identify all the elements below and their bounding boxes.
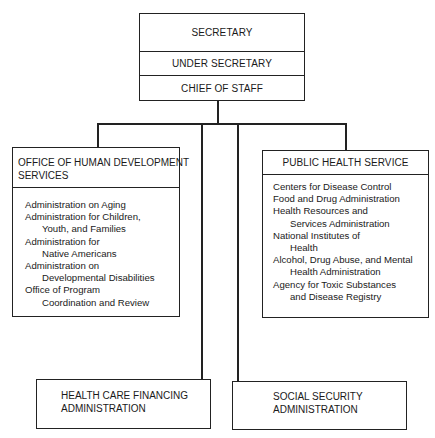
- ohds-title-line2: SERVICES: [18, 169, 174, 182]
- connector-left-drop: [97, 123, 99, 148]
- hcfa-label: HEALTH CARE FINANCING ADMINISTRATION: [61, 390, 188, 415]
- list-item: Administration onDevelopmental Disabilit…: [13, 260, 179, 284]
- ohds-title: OFFICE OF HUMAN DEVELOPMENT SERVICES: [13, 156, 179, 182]
- list-item-text: Health Resources and: [273, 205, 368, 216]
- divider: [263, 174, 428, 175]
- list-item: National Institutes ofHealth: [263, 230, 428, 254]
- list-item-text-cont: and Disease Registry: [273, 291, 428, 303]
- list-item-text-cont: Services Administration: [273, 218, 428, 230]
- list-item: Administration for Children,Youth, and F…: [13, 211, 179, 235]
- list-item-text: Office of Program: [25, 284, 100, 295]
- connector-top-stem: [217, 100, 219, 125]
- phs-title: PUBLIC HEALTH SERVICE: [263, 151, 428, 174]
- list-item-text: Administration on Aging: [25, 199, 126, 210]
- list-item-text: National Institutes of: [273, 230, 360, 241]
- list-item-text-cont: Health Administration: [273, 266, 428, 278]
- list-item-text: Administration for Children,: [25, 211, 141, 222]
- list-item-text: Centers for Disease Control: [273, 181, 391, 192]
- ohds-list: Administration on Aging Administration f…: [13, 199, 179, 309]
- list-item-text: Agency for Toxic Substances: [273, 279, 396, 290]
- phs-box: PUBLIC HEALTH SERVICE Centers for Diseas…: [262, 150, 429, 318]
- ohds-title-line1: OFFICE OF HUMAN DEVELOPMENT: [18, 156, 174, 169]
- ssa-label-line1: SOCIAL SECURITY: [273, 391, 363, 404]
- connector-right-drop: [345, 123, 347, 151]
- list-item-text-cont: Youth, and Families: [25, 223, 179, 235]
- list-item: Centers for Disease Control: [263, 181, 428, 193]
- list-item-text: Administration on: [25, 260, 99, 271]
- list-item-text: Alcohol, Drug Abuse, and Mental: [273, 254, 413, 265]
- ssa-box: SOCIAL SECURITY ADMINISTRATION: [232, 381, 407, 430]
- list-item: Administration forNative Americans: [13, 236, 179, 260]
- divider: [13, 187, 179, 188]
- connector-horizontal-bar: [97, 123, 347, 125]
- list-item-text-cont: Coordination and Review: [25, 297, 179, 309]
- connector-ssa-drop: [237, 123, 239, 382]
- secretary-box: SECRETARY UNDER SECRETARY CHIEF OF STAFF: [139, 13, 305, 101]
- connector-hcfa-drop: [201, 123, 203, 380]
- under-secretary-label: UNDER SECRETARY: [140, 52, 304, 75]
- list-item-text: Food and Drug Administration: [273, 193, 400, 204]
- ohds-box: OFFICE OF HUMAN DEVELOPMENT SERVICES Adm…: [12, 147, 180, 317]
- hcfa-box: HEALTH CARE FINANCING ADMINISTRATION: [36, 379, 211, 429]
- secretary-label: SECRETARY: [140, 14, 304, 51]
- list-item-text-cont: Developmental Disabilities: [25, 272, 179, 284]
- list-item: Administration on Aging: [13, 199, 179, 211]
- list-item: Food and Drug Administration: [263, 193, 428, 205]
- ssa-label: SOCIAL SECURITY ADMINISTRATION: [273, 391, 363, 416]
- list-item-text-cont: Native Americans: [25, 248, 179, 260]
- chief-of-staff-label: CHIEF OF STAFF: [140, 76, 304, 100]
- list-item: Office of ProgramCoordination and Review: [13, 284, 179, 308]
- list-item: Alcohol, Drug Abuse, and MentalHealth Ad…: [263, 254, 428, 278]
- list-item: Health Resources andServices Administrat…: [263, 205, 428, 229]
- hcfa-label-line2: ADMINISTRATION: [61, 403, 188, 416]
- phs-list: Centers for Disease Control Food and Dru…: [263, 181, 428, 303]
- hcfa-label-line1: HEALTH CARE FINANCING: [61, 390, 188, 403]
- list-item-text-cont: Health: [273, 242, 428, 254]
- list-item: Agency for Toxic Substancesand Disease R…: [263, 279, 428, 303]
- list-item-text: Administration for: [25, 236, 100, 247]
- ssa-label-line2: ADMINISTRATION: [273, 404, 363, 417]
